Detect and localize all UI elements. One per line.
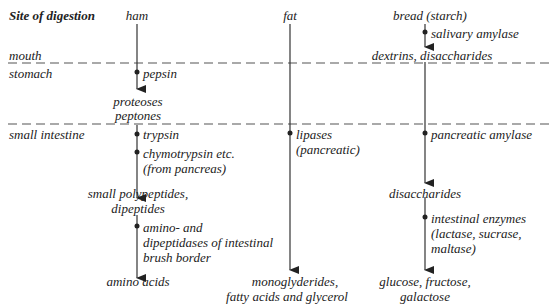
amino-acids-label: amino acids — [106, 274, 169, 289]
pepsin-dot — [135, 70, 140, 75]
small-polypeptides-label: small polypeptides, — [88, 186, 188, 201]
peptones-label: peptones — [115, 108, 161, 123]
chymotrypsin-label: chymotrypsin etc. — [143, 146, 235, 161]
fatty-acids-glycerol-label: fatty acids and glycerol — [226, 289, 348, 304]
disaccharides-label: disaccharides — [389, 186, 461, 201]
dipeptidases-label: dipeptidases of intestinal — [143, 235, 273, 250]
lactase-sucrase-label: (lactase, sucrase, — [431, 226, 522, 241]
dipeptides-label: dipeptides — [111, 201, 164, 216]
galactose-label: galactose — [400, 289, 450, 304]
digestion-diagram: Site of digestion ham fat bread (starch)… — [0, 0, 551, 307]
fat-heading: fat — [283, 8, 297, 23]
intestinal-enzymes-label: intestinal enzymes — [431, 211, 526, 226]
pancreatic-label: (pancreatic) — [296, 142, 360, 157]
site-mouth: mouth — [9, 48, 42, 63]
pancreatic-amylase-label: pancreatic amylase — [431, 127, 532, 142]
aminopeptidase-dot — [135, 224, 140, 229]
diagram-lines — [0, 0, 551, 307]
dextrins-disaccharides-label: dextrins, disaccharides — [372, 48, 493, 63]
chymotrypsin-dot — [135, 150, 140, 155]
intestinal-enzymes-dot — [423, 215, 428, 220]
brush-border-label: brush border — [143, 250, 211, 265]
trypsin-label: trypsin — [143, 127, 179, 142]
maltase-label: maltase) — [431, 241, 476, 256]
monoglyderides-label: monoglyderides, — [252, 274, 338, 289]
amino-and-label: amino- and — [143, 220, 203, 235]
salivary-amylase-dot — [423, 30, 428, 35]
trypsin-dot — [135, 132, 140, 137]
lipase-dot — [288, 131, 293, 136]
site-of-digestion-heading: Site of digestion — [9, 8, 95, 23]
proteoses-label: proteoses — [113, 94, 162, 109]
glucose-fructose-label: glucose, fructose, — [379, 274, 470, 289]
lipases-label: lipases — [296, 127, 332, 142]
from-pancreas-label: (from pancreas) — [143, 161, 226, 176]
bread-heading: bread (starch) — [393, 8, 467, 23]
site-stomach: stomach — [9, 66, 52, 81]
pancreatic-amylase-dot — [423, 131, 428, 136]
site-small-intestine: small intestine — [9, 127, 84, 142]
ham-heading: ham — [126, 8, 148, 23]
salivary-amylase-label: salivary amylase — [431, 26, 519, 41]
pepsin-label: pepsin — [143, 66, 177, 81]
